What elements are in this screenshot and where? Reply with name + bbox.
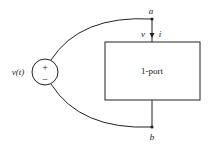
voltage-label: v	[141, 29, 145, 39]
port-label: 1-port	[141, 66, 163, 76]
circuit-svg: + − v(t) a b v i 1-port	[0, 0, 209, 148]
node-a-label: a	[149, 6, 154, 16]
node-a-dot	[150, 17, 153, 20]
node-b-label: b	[150, 132, 155, 142]
node-b-dot	[150, 125, 153, 128]
source-minus: −	[42, 74, 48, 85]
circuit-diagram: + − v(t) a b v i 1-port	[0, 0, 209, 148]
current-arrow-icon	[150, 33, 155, 38]
source-label: v(t)	[12, 67, 25, 77]
source-plus: +	[42, 62, 48, 73]
current-label: i	[159, 29, 162, 39]
